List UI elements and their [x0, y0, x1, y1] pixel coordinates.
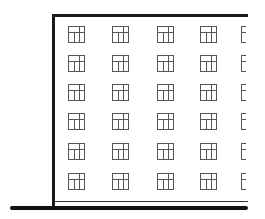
window-icon: [112, 143, 129, 160]
window-mullion: [168, 174, 169, 189]
window-mullion: [168, 56, 169, 71]
roof-line: [52, 14, 248, 17]
window-icon: [112, 26, 129, 43]
window-mullion: [242, 90, 246, 91]
window-mullion: [113, 149, 128, 150]
window-mullion: [118, 119, 119, 129]
window-icon: [200, 26, 217, 43]
window-icon: [157, 55, 174, 72]
window-mullion: [123, 56, 124, 71]
window-icon: [68, 113, 85, 130]
window-mullion: [74, 32, 75, 42]
window-mullion: [168, 144, 169, 159]
window-icon: [157, 113, 174, 130]
window-mullion: [163, 179, 164, 189]
window-icon: [200, 113, 217, 130]
window-mullion: [123, 27, 124, 42]
window-mullion: [123, 174, 124, 189]
window-mullion: [74, 90, 75, 100]
window-mullion: [158, 179, 173, 180]
window-mullion: [242, 149, 246, 150]
window-mullion: [74, 61, 75, 71]
window-mullion: [74, 179, 75, 189]
window-mullion: [79, 56, 80, 71]
window-mullion: [158, 119, 173, 120]
window-mullion: [69, 179, 84, 180]
window-icon: [241, 113, 246, 130]
window-icon: [112, 55, 129, 72]
window-mullion: [242, 32, 246, 33]
window-mullion: [158, 90, 173, 91]
window-icon: [68, 143, 85, 160]
window-mullion: [211, 85, 212, 100]
window-mullion: [79, 27, 80, 42]
window-mullion: [168, 85, 169, 100]
left-wall-line: [52, 14, 55, 209]
window-mullion: [163, 90, 164, 100]
window-icon: [112, 84, 129, 101]
window-icon: [200, 143, 217, 160]
window-mullion: [206, 179, 207, 189]
window-mullion: [123, 114, 124, 129]
window-mullion: [242, 179, 246, 180]
window-icon: [68, 55, 85, 72]
window-mullion: [206, 61, 207, 71]
window-mullion: [201, 90, 216, 91]
window-mullion: [211, 144, 212, 159]
window-mullion: [163, 32, 164, 42]
window-icon: [200, 84, 217, 101]
window-icon: [157, 173, 174, 190]
window-icon: [157, 26, 174, 43]
window-mullion: [69, 149, 84, 150]
window-mullion: [168, 27, 169, 42]
window-icon: [68, 173, 85, 190]
window-mullion: [113, 61, 128, 62]
window-mullion: [69, 61, 84, 62]
window-mullion: [79, 85, 80, 100]
window-icon: [68, 26, 85, 43]
window-icon: [241, 55, 246, 72]
window-mullion: [79, 114, 80, 129]
window-mullion: [201, 119, 216, 120]
window-mullion: [168, 114, 169, 129]
window-icon: [241, 143, 246, 160]
window-mullion: [113, 119, 128, 120]
window-mullion: [206, 90, 207, 100]
window-mullion: [113, 90, 128, 91]
window-mullion: [118, 90, 119, 100]
ground-line: [10, 206, 248, 210]
window-mullion: [211, 114, 212, 129]
window-mullion: [201, 61, 216, 62]
window-mullion: [69, 119, 84, 120]
window-mullion: [206, 149, 207, 159]
window-icon: [112, 173, 129, 190]
window-mullion: [206, 32, 207, 42]
window-mullion: [118, 149, 119, 159]
window-mullion: [113, 179, 128, 180]
window-icon: [241, 84, 246, 101]
window-mullion: [201, 32, 216, 33]
window-icon: [241, 26, 246, 43]
window-mullion: [211, 27, 212, 42]
window-icon: [157, 84, 174, 101]
window-mullion: [123, 85, 124, 100]
window-mullion: [163, 149, 164, 159]
window-mullion: [158, 32, 173, 33]
window-mullion: [163, 61, 164, 71]
window-icon: [241, 173, 246, 190]
window-mullion: [118, 179, 119, 189]
window-icon: [112, 113, 129, 130]
window-mullion: [69, 90, 84, 91]
window-mullion: [201, 149, 216, 150]
window-mullion: [69, 32, 84, 33]
window-mullion: [118, 61, 119, 71]
window-icon: [200, 173, 217, 190]
window-mullion: [163, 119, 164, 129]
window-icon: [68, 84, 85, 101]
window-mullion: [123, 144, 124, 159]
window-mullion: [118, 32, 119, 42]
window-mullion: [113, 32, 128, 33]
window-mullion: [158, 149, 173, 150]
plinth-line: [55, 201, 248, 202]
window-mullion: [74, 119, 75, 129]
